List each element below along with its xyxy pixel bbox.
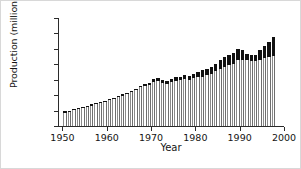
bar-cap-segment bbox=[108, 99, 111, 100]
y-axis-tick bbox=[54, 18, 58, 19]
bar-cap-segment bbox=[125, 93, 128, 94]
y-axis-tick bbox=[54, 126, 58, 127]
bar bbox=[214, 64, 217, 126]
bar-cap-segment bbox=[241, 50, 244, 59]
bar bbox=[219, 60, 222, 126]
y-axis-tick bbox=[54, 80, 58, 81]
bar-cap-segment bbox=[232, 53, 235, 64]
bar bbox=[72, 109, 75, 126]
bar bbox=[179, 77, 182, 126]
plot-area: 0204060801001201401950196019701980199020… bbox=[58, 18, 284, 127]
bar-cap-segment bbox=[254, 55, 257, 61]
x-axis-line bbox=[58, 126, 284, 127]
bar bbox=[254, 55, 257, 126]
bar-cap-segment bbox=[272, 37, 275, 56]
x-axis-tick bbox=[107, 127, 108, 131]
bar-cap-segment bbox=[170, 79, 173, 82]
bar bbox=[165, 81, 168, 127]
bar bbox=[272, 37, 275, 126]
bar bbox=[143, 84, 146, 126]
bar bbox=[130, 91, 133, 126]
bar bbox=[90, 104, 93, 126]
bar bbox=[241, 50, 244, 126]
bar bbox=[232, 53, 235, 126]
bar bbox=[77, 108, 80, 126]
bar bbox=[263, 46, 266, 126]
bar bbox=[205, 69, 208, 126]
bar bbox=[156, 78, 159, 126]
bar-cap-segment bbox=[94, 103, 97, 104]
bar bbox=[188, 76, 191, 126]
bar bbox=[196, 72, 199, 126]
bar-cap-segment bbox=[112, 98, 115, 99]
bar-cap-segment bbox=[103, 101, 106, 102]
bar bbox=[86, 106, 89, 126]
bar bbox=[258, 50, 261, 126]
x-axis-tick bbox=[195, 127, 196, 131]
bar-cap-segment bbox=[236, 49, 239, 61]
bar bbox=[170, 79, 173, 126]
bar-cap-segment bbox=[161, 80, 164, 83]
bar bbox=[121, 94, 124, 126]
bar-cap-segment bbox=[210, 67, 213, 74]
bar-cap-segment bbox=[121, 94, 124, 95]
y-axis-tick bbox=[54, 49, 58, 50]
bar-cap-segment bbox=[99, 102, 102, 103]
x-axis-title: Year bbox=[58, 142, 284, 153]
bar-cap-segment bbox=[139, 86, 142, 88]
bar bbox=[174, 77, 177, 126]
bar bbox=[183, 75, 186, 126]
bar-cap-segment bbox=[156, 78, 159, 81]
bar bbox=[152, 79, 155, 126]
bar-cap-segment bbox=[68, 111, 71, 112]
bar-cap-segment bbox=[152, 79, 155, 82]
y-axis-tick bbox=[54, 64, 58, 65]
bar-cap-segment bbox=[196, 72, 199, 77]
bar-cap-segment bbox=[245, 54, 248, 61]
bar bbox=[192, 74, 195, 126]
bar bbox=[68, 111, 71, 126]
bar-cap-segment bbox=[219, 60, 222, 68]
bar-cap-segment bbox=[263, 46, 266, 58]
bar-cap-segment bbox=[72, 109, 75, 110]
x-axis-tick bbox=[240, 127, 241, 131]
bar-cap-segment bbox=[86, 106, 89, 107]
bar-cap-segment bbox=[130, 91, 133, 92]
y-axis-title: Production (million tonnes) bbox=[8, 0, 24, 88]
bar-cap-segment bbox=[258, 50, 261, 59]
x-axis-tick bbox=[62, 127, 63, 131]
bar bbox=[227, 55, 230, 126]
bar-cap-segment bbox=[77, 108, 80, 109]
bar bbox=[112, 98, 115, 126]
bar bbox=[103, 101, 106, 126]
bar-cap-segment bbox=[223, 57, 226, 66]
bar bbox=[125, 93, 128, 126]
bar bbox=[148, 83, 151, 126]
bar-cap-segment bbox=[205, 69, 208, 75]
bar-cap-segment bbox=[201, 70, 204, 76]
bar bbox=[63, 111, 66, 126]
bar bbox=[210, 67, 213, 126]
bar-cap-segment bbox=[267, 42, 270, 57]
bar bbox=[99, 102, 102, 126]
bar bbox=[81, 107, 84, 126]
bar bbox=[134, 89, 137, 126]
bar-cap-segment bbox=[143, 84, 146, 86]
bar-cap-segment bbox=[117, 96, 120, 97]
bar-cap-segment bbox=[250, 55, 253, 61]
bar bbox=[139, 86, 142, 126]
bar-cap-segment bbox=[134, 89, 137, 90]
bar bbox=[267, 42, 270, 126]
bar bbox=[236, 49, 239, 126]
bar-cap-segment bbox=[227, 55, 230, 65]
bar-cap-segment bbox=[179, 77, 182, 81]
x-axis-tick bbox=[151, 127, 152, 131]
bar-cap-segment bbox=[183, 75, 186, 79]
bar-cap-segment bbox=[214, 64, 217, 72]
bar-cap-segment bbox=[188, 76, 191, 80]
bar-cap-segment bbox=[90, 104, 93, 105]
bar-cap-segment bbox=[148, 83, 151, 85]
bar bbox=[94, 103, 97, 126]
bar bbox=[250, 55, 253, 126]
bar bbox=[245, 54, 248, 127]
